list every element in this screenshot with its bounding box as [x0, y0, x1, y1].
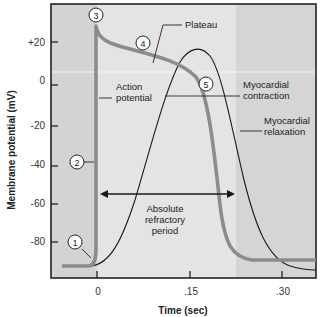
plateau-label: Plateau	[185, 19, 217, 30]
action-potential-label: Action	[116, 81, 142, 92]
y-tick-label: -40	[31, 159, 46, 170]
y-tick-label: -60	[31, 198, 46, 209]
marker-5-number: 5	[203, 80, 208, 90]
y-tick-label: 0	[39, 75, 45, 86]
refractory-label: Absolute	[147, 203, 184, 214]
refractory-label: period	[152, 225, 178, 236]
marker-3-number: 3	[93, 11, 98, 21]
y-tick-label: -80	[31, 236, 46, 247]
band-post-refractory	[236, 4, 316, 278]
x-axis-title: Time (sec)	[158, 305, 207, 316]
relaxation-label: Myocardial	[264, 115, 310, 126]
relaxation-label: relaxation	[264, 126, 305, 137]
refractory-label: refractory	[145, 214, 185, 225]
action-potential-chart: +20 0 -20 -40 -60 -80 0 .15 .30 Time (se…	[0, 0, 326, 317]
y-tick-label: +20	[28, 37, 45, 48]
y-tick-label: -20	[31, 120, 46, 131]
x-tick-label: 0	[95, 286, 101, 297]
contraction-label: Myocardial	[243, 79, 289, 90]
x-tick-label: .30	[276, 286, 290, 297]
x-tick-label: .15	[184, 286, 198, 297]
marker-2-number: 2	[74, 158, 79, 168]
marker-1-number: 1	[72, 238, 77, 248]
action-potential-label: potential	[116, 92, 152, 103]
marker-4-number: 4	[140, 39, 145, 49]
contraction-label: contraction	[243, 90, 289, 101]
y-axis-title: Membrane potential (mV)	[6, 90, 17, 209]
